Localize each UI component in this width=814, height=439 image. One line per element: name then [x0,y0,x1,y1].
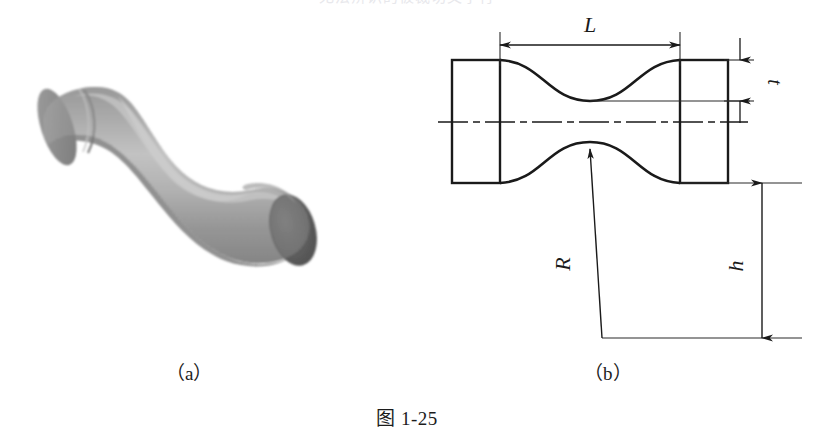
top-waist-curve [500,60,680,101]
dimension-label-h: h [723,261,748,272]
panel-a-caption: （a） [166,358,212,385]
panel-b-engineering-drawing: L t h R [430,16,814,356]
figure-caption: 图 1-25 [0,403,814,430]
panel-a-3d-render [18,38,348,273]
bottom-waist-curve [500,142,680,183]
cropped-top-text-line: 无法辨识的被裁切文字行 [0,0,814,9]
dimension-label-R: R [550,257,575,272]
dimension-label-L: L [583,16,596,37]
dimension-label-t: t [764,79,786,85]
R-leader-line [590,149,602,338]
specimen-3d-body [18,38,348,273]
panel-b-caption: （b） [584,358,632,385]
cropped-top-text: 无法辨识的被裁切文字行 [319,0,495,2]
figure-canvas: 无法辨识的被裁切文字行 [0,0,814,439]
